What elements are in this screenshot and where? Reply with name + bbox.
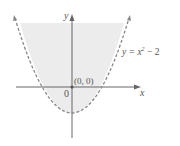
x-axis-label: x (139, 87, 145, 98)
curve-arrow-left-icon (13, 15, 17, 21)
origin-label: 0 (64, 88, 69, 99)
point-label: (0, 0) (74, 76, 94, 86)
y-axis-arrow-icon (70, 14, 75, 21)
diagram-canvas: y x 0 (0, 0) y = x2 − 2 (0, 0, 180, 146)
equation-label: y = x2 − 2 (121, 46, 160, 57)
y-axis-label: y (63, 10, 69, 21)
curve-arrow-right-icon (127, 15, 131, 21)
